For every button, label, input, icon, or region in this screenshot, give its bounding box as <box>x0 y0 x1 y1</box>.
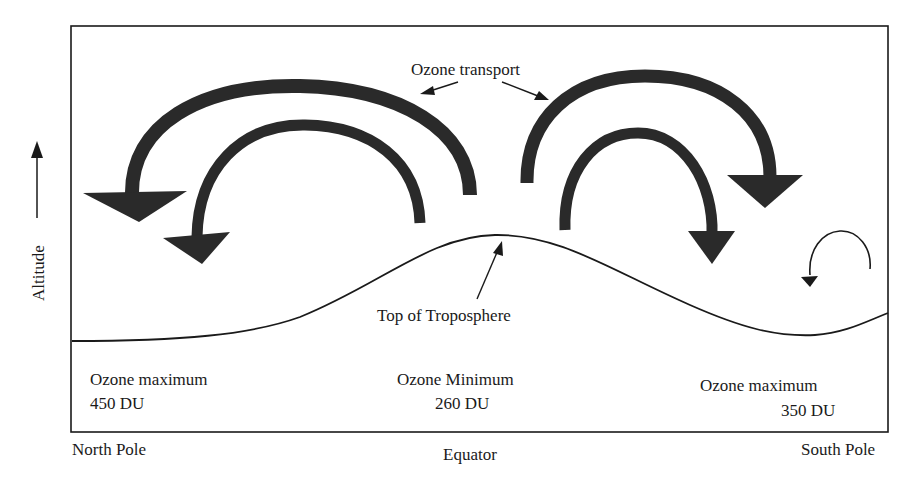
transport-label: Ozone transport <box>411 60 520 80</box>
tropopause-label: Top of Troposphere <box>377 306 511 326</box>
tropopause-pointer-icon <box>477 241 503 299</box>
transport-pointer-left-icon <box>420 82 458 95</box>
region-south-title: Ozone maximum <box>700 376 818 396</box>
region-north-title: Ozone maximum <box>90 370 208 390</box>
altitude-arrow-icon <box>31 141 43 218</box>
region-south-value: 350 DU <box>781 401 835 421</box>
region-equator-title: Ozone Minimum <box>397 370 514 390</box>
transport-arrow-north-inner-icon <box>163 125 420 264</box>
region-north-value: 450 DU <box>90 394 144 414</box>
transport-pointer-right-icon <box>502 82 549 100</box>
region-equator-value: 260 DU <box>435 394 489 414</box>
x-axis-equator: Equator <box>443 445 497 465</box>
x-axis-south-pole: South Pole <box>801 440 875 460</box>
x-axis-north-pole: North Pole <box>72 440 146 460</box>
y-axis-label: Altitude <box>29 245 49 301</box>
transport-arrow-south-inner-icon <box>565 133 735 264</box>
polar-eddy-arrow-icon <box>801 231 870 287</box>
